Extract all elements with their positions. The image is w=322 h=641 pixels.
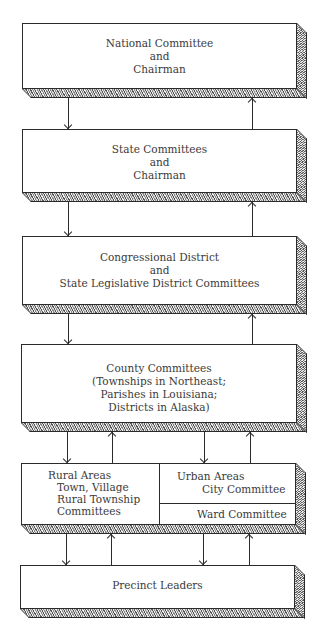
arrow-up-3	[252, 314, 253, 344]
city-committee-label: City Committee	[202, 483, 285, 496]
rural-line-3: Committees	[57, 505, 121, 518]
congressional-district-label: Congressional District and State Legisla…	[22, 251, 297, 290]
ward-committee-label: Ward Committee	[197, 508, 287, 521]
arrow-down-1	[68, 98, 69, 129]
state-committees-label: State Committees and Chairman	[22, 143, 297, 182]
urban-areas-heading: Urban Areas	[177, 470, 244, 483]
arrow-up-5a	[111, 534, 112, 565]
national-committee-label: National Committee and Chairman	[22, 37, 297, 76]
arrow-up-4a	[112, 432, 113, 463]
arrow-down-4b	[204, 432, 205, 463]
county-committees-label: County Committees (Townships in Northeas…	[21, 362, 297, 414]
arrow-up-1	[252, 98, 253, 129]
precinct-leaders-label: Precinct Leaders	[20, 579, 295, 592]
arrow-down-5b	[203, 534, 204, 565]
arrow-up-5b	[249, 534, 250, 565]
arrow-down-4a	[67, 432, 68, 463]
arrow-down-2	[68, 202, 69, 236]
arrow-down-3	[68, 314, 69, 344]
rural-urban-divider	[159, 463, 160, 525]
arrow-down-5a	[66, 534, 67, 565]
arrow-up-4b	[250, 432, 251, 463]
arrow-up-2	[252, 202, 253, 236]
urban-ward-divider	[159, 503, 296, 504]
